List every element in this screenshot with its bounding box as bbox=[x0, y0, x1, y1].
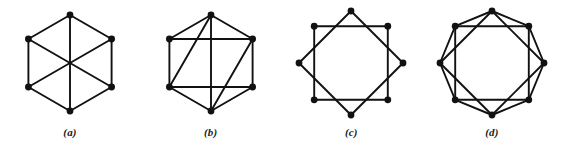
graph-vertex bbox=[385, 96, 392, 103]
graph-edge bbox=[351, 11, 403, 63]
graph-edge bbox=[529, 26, 544, 63]
graph-vertex bbox=[437, 60, 444, 67]
graph-edge bbox=[455, 11, 492, 26]
graph-vertex bbox=[166, 36, 173, 43]
graph-diagram-c bbox=[281, 0, 421, 126]
panel-caption: (c) bbox=[345, 127, 358, 138]
graph-vertices bbox=[296, 8, 407, 119]
graph-edge bbox=[351, 63, 403, 115]
panel-caption: (b) bbox=[204, 127, 217, 138]
graph-vertex bbox=[489, 8, 496, 15]
graph-edge bbox=[440, 11, 492, 63]
panel-b: (b) bbox=[141, 0, 281, 153]
graph-edge bbox=[492, 11, 529, 26]
graph-edge bbox=[28, 87, 70, 111]
graph-vertex bbox=[489, 112, 496, 119]
graph-edge bbox=[169, 15, 211, 87]
graph-vertex bbox=[207, 108, 214, 115]
graph-edge bbox=[492, 100, 529, 115]
graph-vertex bbox=[249, 36, 256, 43]
graph-vertex bbox=[166, 84, 173, 91]
graph-vertex bbox=[108, 36, 115, 43]
graph-edge bbox=[70, 87, 112, 111]
graph-edges bbox=[28, 15, 111, 111]
panel-d: (d) bbox=[422, 0, 562, 153]
graph-edge bbox=[492, 63, 544, 115]
graph-vertex bbox=[525, 96, 532, 103]
graph-vertex bbox=[207, 12, 214, 19]
graph-vertex bbox=[348, 112, 355, 119]
graph-vertex bbox=[67, 12, 74, 19]
graph-vertex bbox=[25, 36, 32, 43]
graph-edge bbox=[440, 63, 492, 115]
graph-edge bbox=[299, 11, 351, 63]
graph-vertex bbox=[452, 96, 459, 103]
graph-edge bbox=[169, 87, 211, 111]
graph-vertex bbox=[25, 84, 32, 91]
panel-caption: (d) bbox=[485, 127, 498, 138]
graph-edge bbox=[492, 11, 544, 63]
graph-vertex bbox=[296, 60, 303, 67]
graph-vertex bbox=[541, 60, 548, 67]
graph-diagram-b bbox=[141, 0, 281, 126]
graph-edge bbox=[70, 15, 112, 39]
graph-edge bbox=[28, 15, 70, 39]
graph-edge bbox=[211, 39, 253, 111]
graph-edge bbox=[529, 63, 544, 100]
graph-edge bbox=[455, 100, 492, 115]
graph-vertex bbox=[67, 108, 74, 115]
graph-edge bbox=[211, 15, 253, 39]
graph-vertex bbox=[311, 96, 318, 103]
graph-vertex bbox=[525, 23, 532, 30]
graph-vertex bbox=[108, 84, 115, 91]
graph-vertex bbox=[249, 84, 256, 91]
graph-vertex bbox=[311, 23, 318, 30]
panel-caption: (a) bbox=[63, 127, 76, 138]
graph-vertex bbox=[385, 23, 392, 30]
figure-row: (a)(b)(c)(d) bbox=[0, 0, 562, 153]
graph-edge bbox=[299, 63, 351, 115]
graph-vertex bbox=[400, 60, 407, 67]
graph-vertices bbox=[437, 8, 548, 119]
panel-c: (c) bbox=[281, 0, 421, 153]
graph-vertex bbox=[348, 8, 355, 15]
graph-edge bbox=[440, 63, 455, 100]
graph-diagram-d bbox=[422, 0, 562, 126]
graph-edge bbox=[440, 26, 455, 63]
graph-edges bbox=[169, 15, 252, 111]
panel-a: (a) bbox=[0, 0, 140, 153]
graph-diagram-a bbox=[0, 0, 140, 126]
graph-vertex bbox=[452, 23, 459, 30]
